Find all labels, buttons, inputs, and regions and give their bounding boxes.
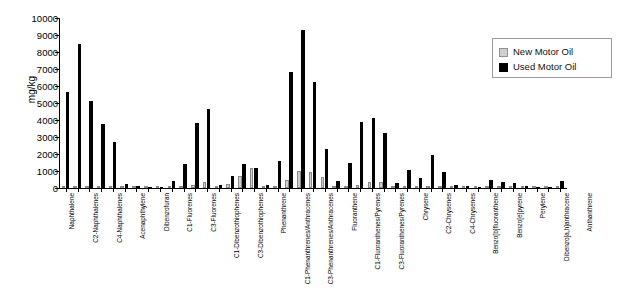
- bar-used-motor-oil: [560, 181, 564, 188]
- x-axis-tick-mark: [525, 189, 526, 192]
- legend-item-used-motor-oil: Used Motor Oil: [499, 60, 606, 74]
- x-axis-tick-mark: [242, 189, 243, 192]
- bar-new-motor-oil: [321, 177, 325, 188]
- bar-group: [342, 18, 354, 188]
- bar-group: [225, 18, 237, 188]
- bar-group: [237, 18, 249, 188]
- x-axis-tick-label: C3-Fluoranthenes/Pyrenes: [398, 193, 405, 269]
- y-axis-tick-mark: [55, 154, 59, 155]
- y-axis-tick-mark: [55, 86, 59, 87]
- legend-label-used-motor-oil: Used Motor Oil: [513, 62, 576, 72]
- bar-group: [284, 18, 296, 188]
- x-axis-tick-mark: [266, 189, 267, 192]
- bar-group: [178, 18, 190, 188]
- bar-group: [154, 18, 166, 188]
- bar-used-motor-oil: [89, 101, 93, 188]
- bar-group: [366, 18, 378, 188]
- x-axis-tick-label: Fluoranthene: [351, 193, 358, 231]
- x-axis-tick-label: C2-Chrysenes: [445, 193, 452, 234]
- x-axis-tick-mark: [490, 189, 491, 192]
- x-axis-tick-mark: [431, 189, 432, 192]
- bar-used-motor-oil: [113, 142, 117, 188]
- x-axis-tick-label: C1-Fluorenes: [186, 193, 193, 232]
- bar-group: [131, 18, 143, 188]
- bar-group: [72, 18, 84, 188]
- bar-group: [189, 18, 201, 188]
- x-axis-tick-mark: [348, 189, 349, 192]
- x-axis-tick-mark: [395, 189, 396, 192]
- y-axis-tick-mark: [55, 69, 59, 70]
- bar-used-motor-oil: [172, 181, 176, 188]
- x-axis-tick-label: Anthanthrene: [586, 193, 593, 231]
- bar-group: [213, 18, 225, 188]
- y-axis-tick-mark: [55, 171, 59, 172]
- x-axis-tick-label: C4-Chrysenes: [469, 193, 476, 234]
- bar-group: [119, 18, 131, 188]
- x-axis-tick-mark: [66, 189, 67, 192]
- y-axis-tick-mark: [55, 103, 59, 104]
- x-axis-tick-mark: [78, 189, 79, 192]
- x-axis-tick-mark: [337, 189, 338, 192]
- bar-used-motor-oil: [195, 123, 199, 188]
- legend-swatch-icon-used-motor-oil: [499, 63, 508, 72]
- bar-group: [84, 18, 96, 188]
- x-axis-tick-label: C3-Phenanthrenes/Anthracenes: [327, 193, 334, 284]
- x-axis-tick-mark: [548, 189, 549, 192]
- bar-used-motor-oil: [183, 164, 187, 188]
- bar-used-motor-oil: [372, 118, 376, 188]
- x-axis-tick-label: Dibenzofuran: [163, 193, 170, 231]
- bar-group: [331, 18, 343, 188]
- x-axis-tick-label: C3-Dibenzothiophenes: [257, 193, 264, 258]
- bar-used-motor-oil: [301, 30, 305, 188]
- bar-group: [272, 18, 284, 188]
- bar-group: [60, 18, 72, 188]
- y-axis-tick-labels: 1000090008000700060005000400030002000100…: [8, 12, 58, 194]
- y-axis-tick-mark: [55, 188, 59, 189]
- x-axis-tick-mark: [454, 189, 455, 192]
- bar-group: [166, 18, 178, 188]
- x-axis-tick-mark: [195, 189, 196, 192]
- x-axis-tick-mark: [478, 189, 479, 192]
- bar-used-motor-oil: [383, 133, 387, 188]
- bar-used-motor-oil: [313, 82, 317, 188]
- x-axis-tick-label: Naphthalene: [68, 193, 75, 229]
- x-axis-tick-mark: [442, 189, 443, 192]
- bar-used-motor-oil: [231, 176, 235, 188]
- legend-swatch-icon-new-motor-oil: [499, 48, 508, 57]
- bar-group: [307, 18, 319, 188]
- bar-group: [425, 18, 437, 188]
- bar-used-motor-oil: [348, 163, 352, 188]
- x-axis-tick-mark: [148, 189, 149, 192]
- bar-group: [95, 18, 107, 188]
- bar-group: [448, 18, 460, 188]
- x-axis-tick-mark: [407, 189, 408, 192]
- bar-group: [472, 18, 484, 188]
- x-axis-tick-mark: [372, 189, 373, 192]
- y-axis-tick-mark: [55, 137, 59, 138]
- bar-used-motor-oil: [254, 168, 258, 188]
- x-axis-tick-label: Chrysene: [422, 193, 429, 220]
- x-axis-tick-mark: [101, 189, 102, 192]
- bar-new-motor-oil: [297, 171, 301, 188]
- bar-used-motor-oil: [419, 178, 423, 188]
- bar-used-motor-oil: [278, 161, 282, 188]
- bar-group: [437, 18, 449, 188]
- bar-group: [260, 18, 272, 188]
- bar-used-motor-oil: [431, 155, 435, 188]
- x-axis-tick-mark: [360, 189, 361, 192]
- x-axis-tick-label: C1-Dibenzothiophenes: [233, 193, 240, 258]
- y-axis-tick-mark: [55, 52, 59, 53]
- x-axis-tick-mark: [172, 189, 173, 192]
- x-axis-tick-label: Perylene: [539, 193, 546, 218]
- bar-group: [460, 18, 472, 188]
- bar-group: [201, 18, 213, 188]
- bar-used-motor-oil: [489, 180, 493, 189]
- chart-figure: mg/kg 1000090008000700060005000400030002…: [0, 0, 617, 291]
- x-axis-tick-label: Dibenzo[a,h]anthracene: [563, 193, 570, 261]
- bar-used-motor-oil: [336, 181, 340, 188]
- x-axis-tick-mark: [537, 189, 538, 192]
- bar-used-motor-oil: [66, 92, 70, 188]
- bar-group: [319, 18, 331, 188]
- chart-legend: New Motor Oil Used Motor Oil: [492, 38, 612, 78]
- x-axis-tick-mark: [136, 189, 137, 192]
